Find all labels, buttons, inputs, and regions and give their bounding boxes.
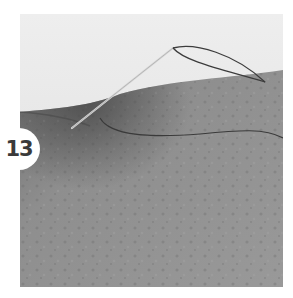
sewing-illustration [20, 14, 283, 287]
instruction-photo [20, 14, 283, 287]
step-number: 13 [5, 137, 32, 161]
step-number-badge: 13 [0, 128, 40, 170]
